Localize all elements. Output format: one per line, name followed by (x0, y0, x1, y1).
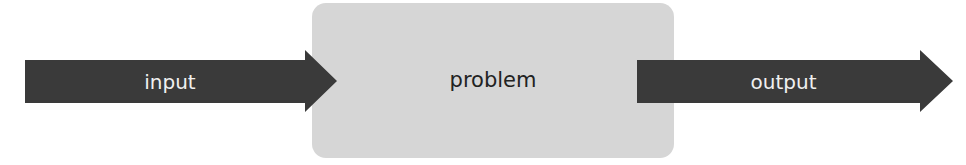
output-label: output (637, 60, 930, 103)
input-label: input (25, 60, 315, 103)
